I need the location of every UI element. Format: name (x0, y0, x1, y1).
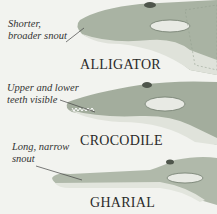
annotation-line: Shorter, (8, 18, 67, 30)
annotation-line: teeth visible (7, 94, 79, 106)
crocodile-annotation: Upper and lower teeth visible (7, 82, 79, 106)
alligator-label: ALLIGATOR (80, 57, 161, 73)
annotation-line: Upper and lower (7, 82, 79, 94)
crocodile-label: CROCODILE (80, 133, 163, 149)
alligator-annotation: Shorter, broader snout (8, 18, 67, 42)
annotation-line: Long, narrow (12, 141, 69, 153)
gharial-label: GHARIAL (90, 195, 155, 211)
annotation-line: snout (12, 153, 69, 165)
gharial-annotation: Long, narrow snout (12, 141, 69, 165)
annotation-line: broader snout (8, 30, 67, 42)
